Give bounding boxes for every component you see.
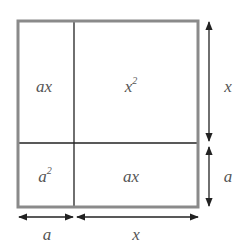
dim-label-bottom-x: x — [131, 225, 140, 244]
dim-label-right-a: a — [224, 167, 233, 186]
area-diagram: ax x2 a2 ax x a a x — [0, 0, 246, 251]
label-bottom-right: ax — [123, 167, 140, 186]
dim-label-right-x: x — [223, 77, 232, 96]
label-top-right: x2 — [124, 75, 138, 96]
dim-label-bottom-a: a — [43, 225, 52, 244]
label-top-left: ax — [36, 77, 53, 96]
label-bottom-left: a2 — [38, 165, 52, 186]
